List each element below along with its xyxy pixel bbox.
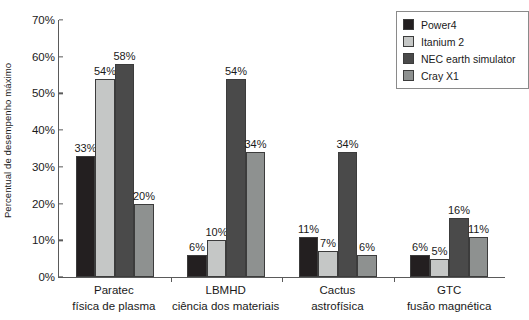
chart-legend: Power4Itanium 2NEC earth simulatorCray X…: [396, 11, 529, 89]
bar[interactable]: [187, 255, 207, 277]
bar-value-label: 20%: [133, 191, 155, 202]
bar-value-label: 6%: [359, 242, 375, 253]
bar[interactable]: [338, 152, 358, 277]
bar[interactable]: [246, 152, 266, 277]
y-axis-tick: 0%: [38, 271, 59, 283]
bar-slot: 20%: [134, 20, 154, 277]
bar-slot: 7%: [318, 20, 338, 277]
y-axis-tick: 40%: [32, 124, 59, 136]
bar-slot: 6%: [357, 20, 377, 277]
bar-value-label: 11%: [298, 224, 319, 235]
y-axis-tick: 30%: [32, 161, 59, 173]
x-axis-category-sublabel: física de plasma: [58, 299, 170, 315]
bar-value-label: 16%: [448, 205, 470, 216]
y-axis-tick-label: 60%: [32, 51, 59, 63]
legend-item-label: Itanium 2: [421, 36, 464, 48]
bar-value-label: 5%: [432, 246, 448, 257]
bar-slot: 10%: [207, 20, 227, 277]
bar-slot: 33%: [76, 20, 96, 277]
legend-item-label: Cray X1: [421, 70, 459, 82]
y-axis-tick-label: 10%: [32, 234, 59, 246]
bar-value-label: 11%: [468, 224, 489, 235]
bar[interactable]: [318, 251, 338, 277]
x-axis-category: LBMHDciência dos materiais: [170, 283, 282, 314]
bar-value-label: 33%: [74, 143, 96, 154]
y-axis-tick: 70%: [32, 14, 59, 26]
bar-value-label: 7%: [320, 238, 336, 249]
bar-value-label: 6%: [412, 242, 428, 253]
bar-slot: 34%: [338, 20, 358, 277]
bar-value-label: 34%: [336, 139, 358, 150]
bar-slot: 54%: [95, 20, 115, 277]
bar-value-label: 58%: [113, 51, 135, 62]
x-axis-group-tick: [394, 277, 395, 282]
bar-value-label: 54%: [94, 66, 116, 77]
bar[interactable]: [357, 255, 377, 277]
bar[interactable]: [299, 237, 319, 277]
y-axis-tick: 20%: [32, 198, 59, 210]
bar-value-label: 54%: [225, 66, 247, 77]
bar-value-label: 10%: [205, 227, 227, 238]
x-axis-category-name: Paratec: [58, 283, 170, 299]
y-axis-tick: 10%: [32, 234, 59, 246]
y-axis-tick-label: 70%: [32, 14, 59, 26]
x-axis-category-sublabel: ciência dos materiais: [170, 299, 282, 315]
x-axis-group-tick: [282, 277, 283, 282]
bar[interactable]: [410, 255, 430, 277]
x-axis-category: Cactusastrofísica: [282, 283, 394, 314]
bar[interactable]: [430, 259, 450, 277]
legend-color-swatch: [403, 70, 414, 81]
bar-slot: 34%: [246, 20, 266, 277]
x-axis-category-sublabel: astrofísica: [282, 299, 394, 315]
x-axis-labels: Paratecfísica de plasmaLBMHDciência dos …: [58, 283, 505, 314]
bar[interactable]: [469, 237, 489, 277]
y-axis-tick-label: 20%: [32, 198, 59, 210]
bar-group: 11%7%34%6%: [282, 20, 394, 277]
bar-slot: 58%: [115, 20, 135, 277]
x-axis-category: GTCfusão magnética: [393, 283, 505, 314]
bar-slot: 6%: [187, 20, 207, 277]
bar[interactable]: [76, 156, 96, 277]
bar[interactable]: [134, 204, 154, 277]
legend-color-swatch: [403, 36, 414, 47]
y-axis-tick: 60%: [32, 51, 59, 63]
x-axis-group-tick: [171, 277, 172, 282]
bar-slot: 11%: [299, 20, 319, 277]
legend-item[interactable]: NEC earth simulator: [403, 51, 524, 66]
y-axis-tick: 50%: [32, 87, 59, 99]
y-axis-tick-label: 0%: [38, 271, 59, 283]
bar[interactable]: [115, 64, 135, 277]
bar-value-label: 34%: [244, 139, 266, 150]
y-axis-title-text: Percentual de desempenho máximo: [3, 62, 14, 217]
legend-item-label: NEC earth simulator: [421, 53, 516, 65]
bar[interactable]: [449, 218, 469, 277]
x-axis-category-name: Cactus: [282, 283, 394, 299]
y-axis-title: Percentual de desempenho máximo: [0, 0, 16, 280]
y-axis-tick-label: 40%: [32, 124, 59, 136]
bar[interactable]: [207, 240, 227, 277]
legend-color-swatch: [403, 19, 414, 30]
bar-slot: 54%: [226, 20, 246, 277]
x-axis-category-name: GTC: [393, 283, 505, 299]
x-axis-category-name: LBMHD: [170, 283, 282, 299]
legend-item[interactable]: Cray X1: [403, 68, 524, 83]
y-axis-tick-label: 50%: [32, 87, 59, 99]
x-axis-category-sublabel: fusão magnética: [393, 299, 505, 315]
legend-color-swatch: [403, 53, 414, 64]
x-axis-category: Paratecfísica de plasma: [58, 283, 170, 314]
bar-group: 33%54%58%20%: [59, 20, 171, 277]
legend-item[interactable]: Itanium 2: [403, 34, 524, 49]
bar[interactable]: [95, 79, 115, 277]
bar-group: 6%10%54%34%: [171, 20, 283, 277]
bar-value-label: 6%: [189, 242, 205, 253]
legend-item[interactable]: Power4: [403, 17, 524, 32]
bar[interactable]: [226, 79, 246, 277]
y-axis-tick-label: 30%: [32, 161, 59, 173]
legend-item-label: Power4: [421, 19, 457, 31]
